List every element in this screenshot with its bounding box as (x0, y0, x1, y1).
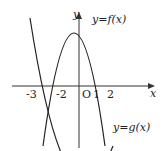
origin-label: O (82, 89, 91, 100)
tick-label: 1 (93, 89, 100, 100)
tick-label: -3 (26, 89, 37, 100)
tick-label: 2 (107, 89, 114, 100)
curve-g (30, 18, 113, 151)
curve-f-label: y=f(x) (92, 14, 126, 25)
curve-g-label: y=g(x) (113, 122, 150, 133)
y-axis-label: y (73, 9, 79, 20)
tick-label: -2 (56, 89, 67, 100)
x-axis-label: x (150, 88, 156, 99)
